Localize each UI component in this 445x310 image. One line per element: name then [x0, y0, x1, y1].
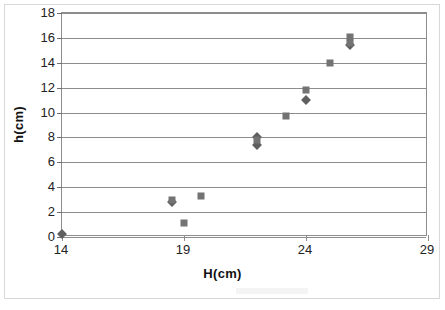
gridline: [62, 187, 426, 188]
y-tick-mark: [57, 137, 62, 138]
x-tick-mark: [184, 235, 185, 241]
y-axis-label-container: h(cm): [8, 0, 28, 248]
y-tick-mark: [57, 38, 62, 39]
y-tick-label: 16: [41, 31, 55, 44]
y-tick-label: 12: [41, 81, 55, 94]
y-tick-mark: [57, 13, 62, 14]
x-axis-tick-labels: 14192429: [61, 243, 427, 261]
y-tick-mark: [57, 63, 62, 64]
gridline: [62, 162, 426, 163]
data-point-square: [346, 39, 353, 46]
data-point-square: [254, 136, 261, 143]
y-tick-mark: [57, 88, 62, 89]
gridline: [62, 63, 426, 64]
y-tick-label: 10: [41, 106, 55, 119]
data-point-square: [168, 196, 175, 203]
gridline: [62, 137, 426, 138]
x-tick-label: 19: [176, 243, 190, 256]
y-tick-label: 18: [41, 6, 55, 19]
x-tick-label: 29: [420, 243, 434, 256]
x-tick-mark: [428, 235, 429, 241]
y-axis-label: h(cm): [11, 106, 26, 143]
y-tick-label: 6: [48, 155, 55, 168]
scan-artifact: [236, 288, 308, 294]
data-point-square: [303, 87, 310, 94]
y-tick-mark: [57, 212, 62, 213]
gridline: [62, 88, 426, 89]
x-tick-mark: [306, 235, 307, 241]
y-tick-label: 2: [48, 205, 55, 218]
y-tick-label: 8: [48, 130, 55, 143]
gridline: [62, 237, 426, 238]
y-tick-label: 14: [41, 56, 55, 69]
x-tick-label: 14: [54, 243, 68, 256]
data-point-square: [181, 220, 188, 227]
gridline: [62, 113, 426, 114]
y-tick-mark: [57, 187, 62, 188]
data-point-square: [283, 113, 290, 120]
gridline: [62, 38, 426, 39]
plot-area: [61, 12, 427, 236]
y-tick-mark: [57, 113, 62, 114]
gridline: [62, 212, 426, 213]
x-tick-label: 24: [298, 243, 312, 256]
data-point-square: [327, 59, 334, 66]
x-axis-label: H(cm): [0, 266, 445, 281]
gridline: [62, 13, 426, 14]
y-tick-label: 4: [48, 180, 55, 193]
data-point-diamond: [301, 95, 311, 105]
data-point-square: [198, 192, 205, 199]
y-tick-mark: [57, 162, 62, 163]
chart-figure: h(cm) 024681012141618 14192429 H(cm): [0, 0, 445, 310]
y-axis-tick-labels: 024681012141618: [26, 12, 55, 236]
